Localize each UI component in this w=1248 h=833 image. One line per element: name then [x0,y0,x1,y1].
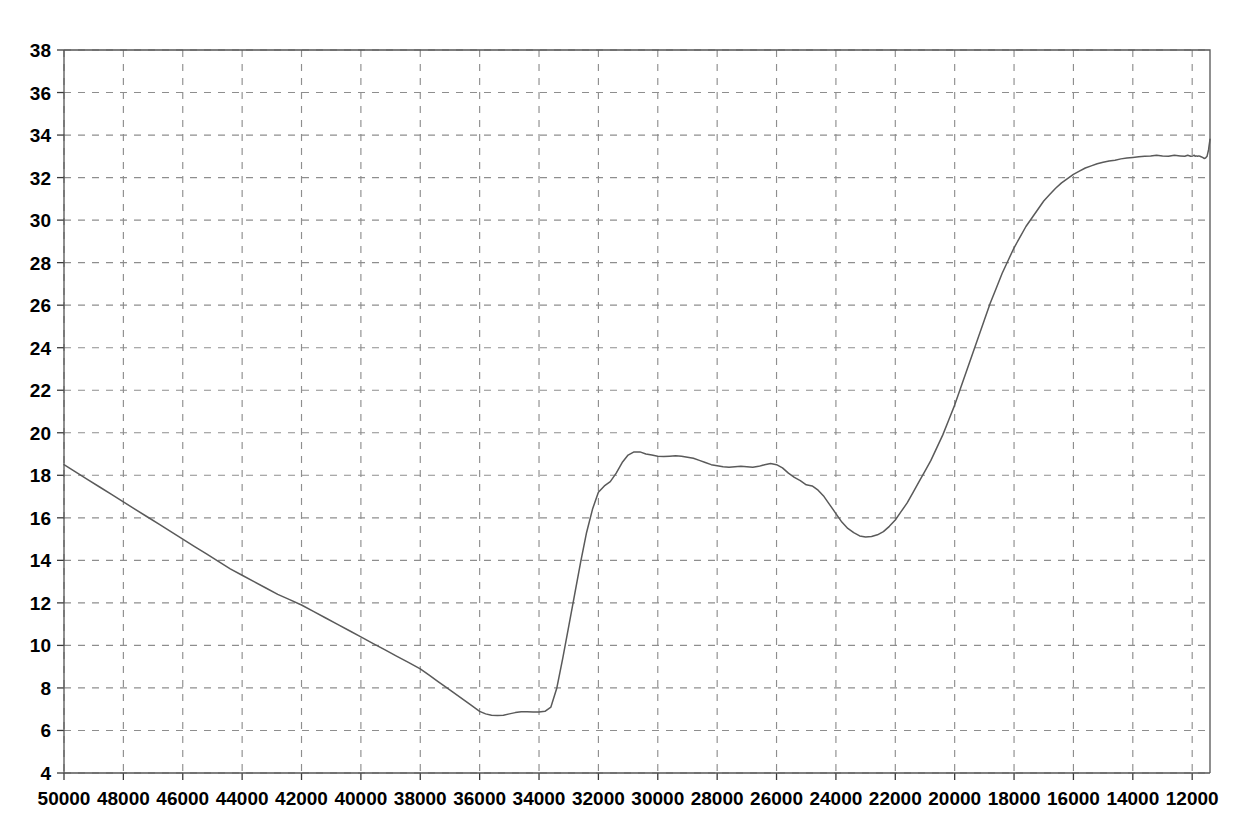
x-axis-tick-label: 32000 [572,788,625,809]
y-axis-tick-label: 6 [40,720,51,741]
y-axis-tick-label: 34 [30,125,52,146]
y-axis-tick-label: 4 [40,763,51,784]
y-axis-tick-label: 22 [30,380,51,401]
x-axis-tick-label: 34000 [513,788,566,809]
x-axis-tick-label: 16000 [1047,788,1100,809]
x-axis-tick-label: 50000 [38,788,91,809]
x-axis-tick-label: 22000 [869,788,922,809]
axis-spine-left-bottom [64,50,1210,773]
x-axis-tick-label: 28000 [691,788,744,809]
tick-marks [57,50,1192,780]
y-axis-tick-label: 10 [30,635,51,656]
y-axis-tick-label: 8 [40,678,51,699]
data-series-curve [64,139,1210,715]
plot-axes [64,50,1210,773]
x-axis-tick-labels: 5000048000460004400042000400003800036000… [38,788,1219,809]
x-axis-tick-label: 20000 [928,788,981,809]
x-axis-tick-label: 48000 [97,788,150,809]
x-axis-tick-label: 46000 [156,788,209,809]
x-axis-tick-label: 12000 [1166,788,1219,809]
y-axis-tick-label: 32 [30,168,51,189]
x-axis-tick-label: 14000 [1106,788,1159,809]
y-axis-tick-label: 20 [30,423,51,444]
y-axis-tick-label: 18 [30,465,51,486]
x-axis-tick-label: 36000 [453,788,506,809]
y-axis-tick-label: 16 [30,508,51,529]
x-axis-tick-label: 18000 [988,788,1041,809]
axis-spine-top-right [64,50,1210,773]
y-axis-tick-label: 36 [30,83,51,104]
grid-lines [64,50,1210,773]
chart-container: 468101214161820222426283032343638 500004… [0,0,1248,833]
data-line-curve [64,139,1210,715]
x-axis-tick-label: 26000 [750,788,803,809]
y-axis-tick-label: 38 [30,40,51,61]
x-axis-tick-label: 38000 [394,788,447,809]
x-axis-tick-label: 24000 [809,788,862,809]
x-axis-tick-label: 30000 [631,788,684,809]
y-axis-tick-label: 28 [30,253,51,274]
y-axis-tick-labels: 468101214161820222426283032343638 [30,40,52,784]
y-axis-tick-label: 26 [30,295,51,316]
y-axis-tick-label: 14 [30,550,52,571]
y-axis-tick-label: 12 [30,593,51,614]
y-axis-tick-label: 30 [30,210,51,231]
x-axis-tick-label: 40000 [334,788,387,809]
y-axis-tick-label: 24 [30,338,52,359]
x-axis-tick-label: 42000 [275,788,328,809]
line-chart: 468101214161820222426283032343638 500004… [0,0,1248,833]
x-axis-tick-label: 44000 [216,788,269,809]
